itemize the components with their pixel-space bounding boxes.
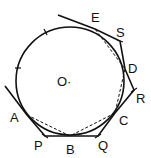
label-p: P [34, 138, 43, 153]
label-c: C [119, 113, 128, 128]
geometry-diagram: O· E S D R C Q B P A [0, 0, 151, 158]
label-r: R [136, 91, 145, 106]
label-a: A [10, 110, 19, 125]
label-s: S [116, 25, 125, 40]
label-o: O· [57, 74, 71, 89]
label-q: Q [98, 138, 108, 153]
label-e: E [91, 10, 100, 25]
label-d: D [128, 61, 137, 76]
label-b: B [66, 142, 75, 157]
